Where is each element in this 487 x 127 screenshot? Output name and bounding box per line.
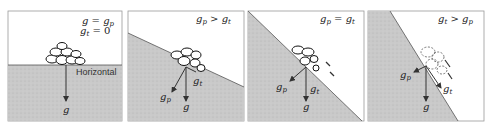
panel-steep-slope: g gp gt gt > gp xyxy=(368,11,484,121)
gravity-label: g xyxy=(303,101,309,112)
slope-stability-diagram: g Horizontal g = gp gt = 0 g gp gt gp > … xyxy=(0,0,487,127)
gravity-label: g xyxy=(423,101,429,112)
gravity-label: g xyxy=(183,101,189,112)
panel-gentle-slope: g gp gt gp > gt xyxy=(128,11,244,121)
horizontal-label: Horizontal xyxy=(76,67,117,77)
panel-critical-slope: g gp gt gp = gt xyxy=(248,11,364,121)
panel-flat: g Horizontal g = gp gt = 0 xyxy=(8,11,122,121)
gravity-label: g xyxy=(63,104,69,115)
